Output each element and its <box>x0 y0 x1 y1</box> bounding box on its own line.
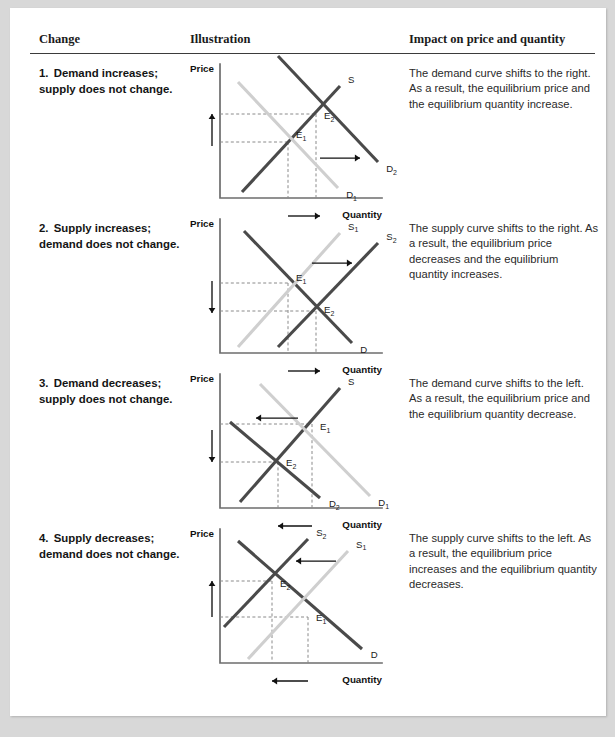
change-text: Demand decreases; supply does not change… <box>39 377 173 405</box>
column-header-illustration: Illustration <box>190 32 250 47</box>
curve-label-s2: S2 <box>386 231 396 244</box>
curve-s2 <box>224 539 308 627</box>
chart-axes <box>220 219 382 353</box>
x-axis-label: Quantity <box>342 674 382 685</box>
table-row: 1. Demand increases; supply does not cha… <box>30 58 595 213</box>
column-header-change: Change <box>39 32 80 47</box>
curve-s1 <box>238 233 340 347</box>
curve-label-d1: D1 <box>346 189 357 202</box>
change-text: Supply increases; demand does not change… <box>39 222 180 250</box>
table-row: 3. Demand decreases; supply does not cha… <box>30 368 595 523</box>
impact-description: The demand curve shifts to the right. As… <box>409 66 599 112</box>
curve-shift-arrow <box>296 558 336 565</box>
supply-demand-chart: SD1D2E1E2PriceQuantity <box>186 368 401 526</box>
curve-d1 <box>260 384 370 496</box>
table-body: 1. Demand increases; supply does not cha… <box>30 58 595 678</box>
equilibrium-label-e1: E1 <box>320 421 330 434</box>
price-change-arrow <box>209 430 216 462</box>
illustration-cell: DS1S2E1E2PriceQuantity <box>186 523 401 681</box>
equilibrium-label-e1: E1 <box>296 129 306 142</box>
curve-label-s2: S2 <box>316 527 326 540</box>
equilibrium-label-e2: E2 <box>324 304 334 317</box>
price-change-arrow <box>209 281 216 313</box>
illustration-cell: SD1D2E1E2PriceQuantity <box>186 58 401 216</box>
equilibrium-label-e2: E2 <box>280 578 290 591</box>
curve-shift-arrow <box>312 260 352 267</box>
curve-label-d: D <box>360 344 367 355</box>
y-axis-label: Price <box>190 63 215 74</box>
table-row: 4. Supply decreases; demand does not cha… <box>30 523 595 678</box>
row-number: 2. <box>39 222 49 234</box>
change-description: 4. Supply decreases; demand does not cha… <box>39 531 184 562</box>
supply-demand-chart: DS1S2E1E2PriceQuantity <box>186 213 401 371</box>
impact-description: The supply curve shifts to the right. As… <box>409 221 599 283</box>
quantity-change-arrow <box>272 678 308 685</box>
supply-demand-chart: SD1D2E1E2PriceQuantity <box>186 58 401 216</box>
illustration-cell: DS1S2E1E2PriceQuantity <box>186 213 401 371</box>
price-change-arrow <box>209 581 216 617</box>
curve-shift-arrow <box>320 155 360 162</box>
table-row: 2. Supply increases; demand does not cha… <box>30 213 595 368</box>
chart-axes <box>220 374 382 508</box>
price-change-arrow <box>209 114 216 146</box>
change-description: 3. Demand decreases; supply does not cha… <box>39 376 184 407</box>
row-number: 1. <box>39 67 49 79</box>
y-axis-label: Price <box>190 528 215 539</box>
curve-label-s1: S1 <box>356 539 366 552</box>
change-text: Supply decreases; demand does not change… <box>39 532 180 560</box>
comparison-table: Change Illustration Impact on price and … <box>30 32 595 678</box>
y-axis-label: Price <box>190 218 215 229</box>
change-description: 2. Supply increases; demand does not cha… <box>39 221 184 252</box>
header-divider <box>30 53 595 54</box>
impact-description: The demand curve shifts to the left. As … <box>409 376 599 422</box>
column-header-impact: Impact on price and quantity <box>409 32 565 47</box>
equilibrium-label-e1: E1 <box>316 612 326 625</box>
curve-label-d2: D2 <box>329 498 340 511</box>
curve-label-d2: D2 <box>386 163 397 176</box>
curve-s1 <box>248 551 348 659</box>
equilibrium-label-e2: E2 <box>286 457 296 470</box>
curve-s2 <box>278 243 378 347</box>
row-number: 4. <box>39 532 49 544</box>
change-description: 1. Demand increases; supply does not cha… <box>39 66 184 97</box>
figure-card: Change Illustration Impact on price and … <box>10 8 606 716</box>
change-text: Demand increases; supply does not change… <box>39 67 173 95</box>
illustration-cell: SD1D2E1E2PriceQuantity <box>186 368 401 526</box>
curve-label-d: D <box>371 649 378 660</box>
curve-label-s: S <box>348 74 354 85</box>
curve-label-d1: D1 <box>378 497 389 510</box>
curve-label-s: S <box>348 376 354 387</box>
curve-label-s1: S1 <box>348 221 358 234</box>
table-header-row: Change Illustration Impact on price and … <box>30 32 595 58</box>
row-number: 3. <box>39 377 49 389</box>
curve-d2 <box>278 56 378 162</box>
curve-d1 <box>238 82 338 188</box>
y-axis-label: Price <box>190 373 215 384</box>
impact-description: The supply curve shifts to the left. As … <box>409 531 599 593</box>
supply-demand-chart: DS1S2E1E2PriceQuantity <box>186 523 401 681</box>
